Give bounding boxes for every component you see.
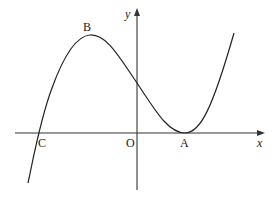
origin-label: O (126, 136, 135, 150)
y-axis-arrow-icon (134, 8, 140, 16)
function-curve (28, 33, 234, 183)
y-axis-label: y (124, 7, 131, 21)
point-b-label: B (83, 20, 91, 34)
point-c-label: C (38, 136, 46, 150)
function-graph: y x O B A C (0, 0, 275, 197)
x-axis-label: x (256, 136, 263, 150)
point-a-label: A (180, 136, 189, 150)
